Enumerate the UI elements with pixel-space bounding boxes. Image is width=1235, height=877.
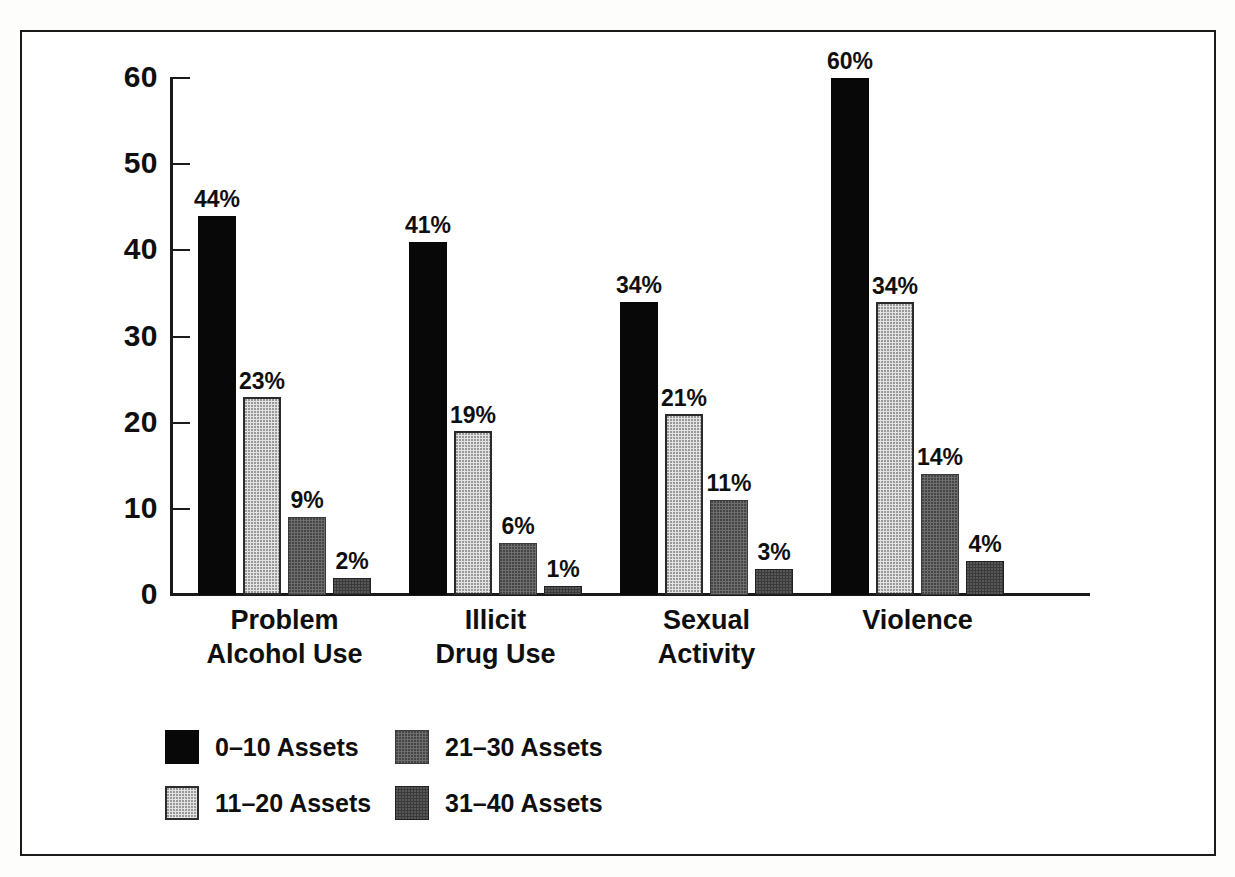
bar-value-label: 4%	[968, 533, 1001, 556]
y-tick-label: 50	[124, 148, 158, 178]
legend-label: 0–10 Assets	[215, 735, 359, 760]
y-tick-label: 10	[124, 493, 158, 523]
legend-color-swatch	[395, 730, 429, 764]
bar-value-label: 60%	[827, 50, 873, 73]
legend-label: 21–30 Assets	[445, 735, 603, 760]
bar[interactable]: 23%	[243, 397, 281, 595]
bar[interactable]: 19%	[454, 431, 492, 595]
bar-value-label: 14%	[917, 446, 963, 469]
y-tick-label: 20	[124, 407, 158, 437]
legend-item[interactable]: 0–10 Assets	[165, 730, 359, 764]
bar[interactable]: 34%	[876, 302, 914, 595]
legend-color-swatch	[395, 786, 429, 820]
bar[interactable]: 3%	[755, 569, 793, 595]
figure-canvas: 6050403020100 44%23%9%2%41%19%6%1%34%21%…	[0, 0, 1235, 877]
chart-legend: 0–10 Assets21–30 Assets11–20 Assets31–40…	[165, 730, 685, 830]
y-tick-label: 40	[124, 234, 158, 264]
bar[interactable]: 2%	[333, 578, 371, 595]
bar-group: 34%21%11%3%	[620, 78, 793, 595]
bar[interactable]: 60%	[831, 78, 869, 595]
bar[interactable]: 1%	[544, 586, 582, 595]
bar-group: 44%23%9%2%	[198, 78, 371, 595]
bar-value-label: 19%	[450, 404, 496, 427]
y-tick-label: 30	[124, 321, 158, 351]
bar[interactable]: 9%	[288, 517, 326, 595]
bar[interactable]: 21%	[665, 414, 703, 595]
bar-value-label: 2%	[335, 550, 368, 573]
legend-item[interactable]: 31–40 Assets	[395, 786, 603, 820]
bar-value-label: 11%	[707, 472, 752, 495]
bar-value-label: 3%	[757, 541, 790, 564]
legend-color-swatch	[165, 786, 199, 820]
category-label: Violence	[768, 604, 1068, 638]
bar-group: 41%19%6%1%	[409, 78, 582, 595]
bar-value-label: 23%	[239, 370, 285, 393]
bar-value-label: 9%	[290, 489, 323, 512]
bar[interactable]: 11%	[710, 500, 748, 595]
legend-item[interactable]: 21–30 Assets	[395, 730, 603, 764]
bar[interactable]: 44%	[198, 216, 236, 595]
bar-value-label: 21%	[661, 387, 707, 410]
legend-color-swatch	[165, 730, 199, 764]
y-axis-tick-labels: 6050403020100	[60, 0, 158, 877]
bar[interactable]: 14%	[921, 474, 959, 595]
bar[interactable]: 4%	[966, 561, 1004, 595]
bar-value-label: 34%	[616, 274, 662, 297]
y-tick-label: 60	[124, 62, 158, 92]
bar-value-label: 41%	[405, 214, 451, 237]
bar-value-label: 6%	[501, 515, 534, 538]
bar-value-label: 44%	[194, 188, 240, 211]
legend-label: 11–20 Assets	[215, 791, 371, 816]
legend-item[interactable]: 11–20 Assets	[165, 786, 371, 820]
bar-group: 60%34%14%4%	[831, 78, 1004, 595]
plot-area: 44%23%9%2%41%19%6%1%34%21%11%3%60%34%14%…	[170, 78, 1090, 595]
bar[interactable]: 6%	[499, 543, 537, 595]
bar[interactable]: 34%	[620, 302, 658, 595]
legend-label: 31–40 Assets	[445, 791, 603, 816]
bar[interactable]: 41%	[409, 242, 447, 595]
bar-value-label: 34%	[872, 275, 918, 298]
bar-value-label: 1%	[546, 558, 579, 581]
